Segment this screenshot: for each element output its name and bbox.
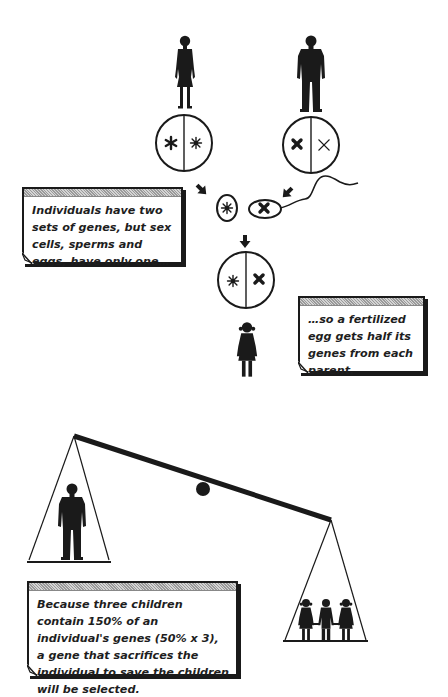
father-gene-circle xyxy=(283,117,339,173)
callout-header-texture xyxy=(300,298,423,306)
offspring-gene-circle xyxy=(218,252,274,308)
page-curl-icon xyxy=(22,252,34,264)
page-curl-icon xyxy=(298,361,310,373)
arrow-to-zygote-icon xyxy=(240,235,251,248)
callout-text: Individuals have two sets of genes, but … xyxy=(24,197,181,270)
offspring-girl-icon xyxy=(237,322,257,377)
three-children-icon xyxy=(298,599,354,641)
father-figure-icon xyxy=(297,36,325,113)
gene-star-icon xyxy=(191,138,202,149)
callout-header-texture xyxy=(24,189,181,197)
callout-header-texture xyxy=(29,583,236,591)
page-curl-icon xyxy=(27,664,39,676)
egg-cell xyxy=(217,195,237,221)
adult-individual-icon xyxy=(58,484,86,561)
callout-text: Because three children contain 150% of a… xyxy=(29,591,236,697)
callout-gametes: Individuals have two sets of genes, but … xyxy=(22,187,183,264)
mother-gene-circle xyxy=(156,115,212,171)
sperm-cell xyxy=(249,176,358,218)
arrow-father-to-sperm-icon xyxy=(279,184,296,201)
callout-text: …so a fertilized egg gets half its genes… xyxy=(300,306,423,379)
mother-figure-icon xyxy=(175,36,195,109)
arrow-mother-to-egg-icon xyxy=(193,181,210,198)
callout-fertilized-egg: …so a fertilized egg gets half its genes… xyxy=(298,296,425,373)
callout-kin-selection: Because three children contain 150% of a… xyxy=(27,581,238,676)
